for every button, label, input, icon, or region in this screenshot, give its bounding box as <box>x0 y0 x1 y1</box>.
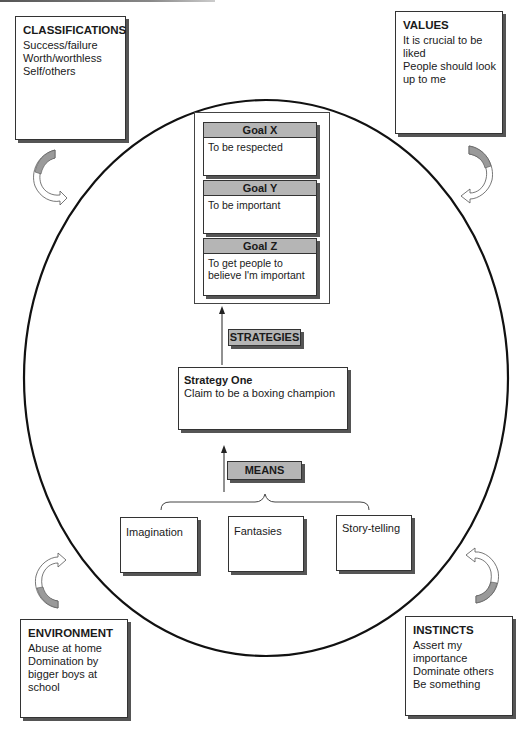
means-text: Imagination <box>126 526 183 538</box>
strategy-text: Claim to be a boxing champion <box>184 387 342 400</box>
strategy-one-box: Strategy One Claim to be a boxing champi… <box>178 367 348 430</box>
means-imagination-box: Imagination <box>120 517 198 573</box>
goal-title: Goal Z <box>204 239 316 254</box>
arrow-strategy-to-goals <box>219 306 225 365</box>
classifications-box: CLASSIFICATIONS Success/failure Worth/wo… <box>15 16 126 140</box>
values-box: VALUES It is crucial to be liked People … <box>395 11 503 134</box>
instincts-title: INSTINCTS <box>413 624 512 637</box>
instinct-item: Dominate others <box>413 665 512 678</box>
means-story-telling-box: Story-telling <box>336 515 412 571</box>
goal-title: Goal X <box>204 123 316 138</box>
means-label: MEANS <box>227 461 302 480</box>
classifications-title: CLASSIFICATIONS <box>23 24 125 37</box>
environment-item: Domination by bigger boys at school <box>28 655 104 694</box>
values-title: VALUES <box>403 19 502 32</box>
means-fantasies-box: Fantasies <box>228 516 304 572</box>
goal-y-card: Goal Y To be important <box>203 180 317 234</box>
goal-x-card: Goal X To be respected <box>203 122 317 176</box>
goal-z-card: Goal Z To get people to believe I'm impo… <box>203 238 317 296</box>
classification-item: Self/others <box>23 65 125 78</box>
value-item: People should look up to me <box>403 60 499 86</box>
classification-item: Worth/worthless <box>23 52 125 65</box>
goal-title: Goal Y <box>204 181 316 196</box>
means-brace <box>161 494 369 510</box>
goals-frame: Goal X To be respected Goal Y To be impo… <box>194 112 330 304</box>
means-text: Story-telling <box>342 522 400 534</box>
environment-title: ENVIRONMENT <box>28 627 127 640</box>
strategies-label: STRATEGIES <box>228 329 301 346</box>
environment-item: Abuse at home <box>28 642 127 655</box>
value-item: It is crucial to be liked <box>403 34 491 60</box>
curved-arrow-environment-icon <box>35 553 66 608</box>
instinct-item: Be something <box>413 678 512 691</box>
environment-box: ENVIRONMENT Abuse at home Domination by … <box>20 619 128 718</box>
curved-arrow-values-icon <box>461 146 493 203</box>
goal-text: To be important <box>204 196 316 214</box>
classification-item: Success/failure <box>23 39 125 52</box>
curved-arrow-classifications-icon <box>34 150 67 205</box>
instincts-box: INSTINCTS Assert my importance Dominate … <box>405 616 513 716</box>
means-text: Fantasies <box>234 525 282 537</box>
instinct-item: Assert my importance <box>413 639 477 665</box>
goal-text: To get people to believe I'm important <box>204 254 316 284</box>
strategy-title: Strategy One <box>184 374 342 387</box>
curved-arrow-instincts-icon <box>466 548 499 603</box>
goal-text: To be respected <box>204 138 316 156</box>
